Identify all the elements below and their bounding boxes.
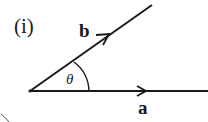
origin-point	[28, 89, 31, 92]
vector-b-line	[30, 5, 152, 91]
angle-label: θ	[66, 71, 74, 87]
vector-diagram: (i) b θ a	[0, 0, 208, 122]
angle-arc	[74, 62, 89, 91]
curve-fragment	[1, 114, 9, 122]
vector-a-label: a	[138, 97, 148, 118]
part-label: (i)	[14, 14, 34, 38]
vector-b-label: b	[79, 20, 90, 41]
